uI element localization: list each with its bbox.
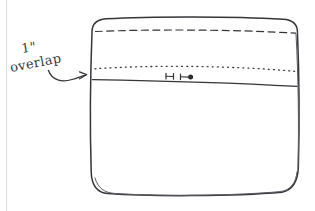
measure-dot: [188, 75, 193, 80]
bag-panel-outline: [90, 17, 299, 196]
overlap-annotation: 1" overlap: [9, 39, 63, 75]
stitch-line-dotted: [95, 66, 296, 71]
diagram-canvas: 1" overlap: [0, 0, 315, 211]
measure-marks-group: [166, 73, 193, 79]
annotation-inch-label: 1": [20, 39, 37, 56]
annotation-overlap-label: overlap: [9, 50, 63, 75]
diagram-page: 1" overlap: [0, 0, 315, 211]
overlap-edge-line: [93, 80, 298, 87]
annotation-arrow: [49, 71, 87, 81]
fold-line-dashed: [96, 30, 296, 33]
